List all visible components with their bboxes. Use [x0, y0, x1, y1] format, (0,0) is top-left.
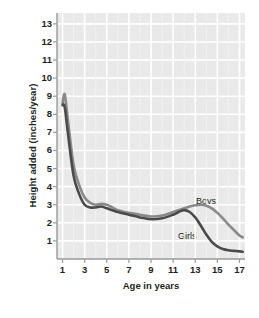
series-curves — [63, 94, 243, 252]
gridlines — [57, 13, 245, 259]
series-curve-girls — [63, 104, 243, 251]
series-curve-boys — [63, 94, 243, 237]
chart-vector-layer — [0, 0, 259, 318]
growth-velocity-chart: Height added (inches/year) 1234567891011… — [0, 0, 259, 318]
